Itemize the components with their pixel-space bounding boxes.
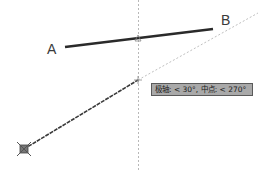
drawing-line — [24, 80, 138, 149]
point-a-label: A — [47, 42, 56, 56]
polar-tracking-line — [138, 13, 258, 80]
cursor-snap-icon — [134, 76, 142, 84]
tracking-tooltip: 极轴: < 30°, 中点: < 270° — [151, 83, 253, 96]
point-b-label: B — [221, 13, 230, 27]
start-point-marker-icon — [17, 142, 31, 156]
